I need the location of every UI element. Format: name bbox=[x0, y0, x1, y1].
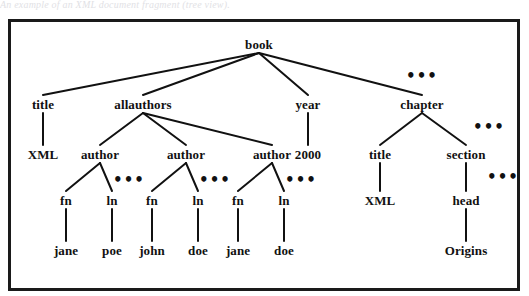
ellipsis-ell-chapter-siblings: ••• bbox=[406, 69, 438, 84]
tree-node-ln2: ln bbox=[192, 194, 203, 207]
tree-node-title2: title bbox=[369, 148, 391, 161]
tree-edge bbox=[66, 163, 100, 191]
tree-edge bbox=[152, 163, 186, 191]
ellipsis-ell-author2: ••• bbox=[199, 173, 231, 188]
ellipsis-ell-author3: ••• bbox=[285, 173, 317, 188]
tree-node-jane2: jane bbox=[226, 244, 250, 257]
tree-node-xml2: XML bbox=[365, 194, 396, 207]
tree-node-origins: Origins bbox=[445, 244, 488, 257]
figure-caption: An example of an XML document fragment (… bbox=[0, 0, 529, 10]
ellipsis-ell-section-siblings: ••• bbox=[473, 120, 505, 135]
tree-edge bbox=[238, 163, 272, 191]
tree-edge bbox=[100, 113, 143, 145]
tree-node-author2: author bbox=[167, 148, 205, 161]
tree-node-y2000: 2000 bbox=[295, 148, 321, 161]
tree-edge bbox=[186, 163, 198, 191]
tree-node-book: book bbox=[245, 38, 273, 51]
tree-node-fn2: fn bbox=[146, 194, 158, 207]
figure-frame: booktitleallauthorsyearchapterXMLauthora… bbox=[8, 19, 520, 291]
tree-node-john: john bbox=[139, 244, 165, 257]
tree-node-author1: author bbox=[81, 148, 119, 161]
tree-node-ln3: ln bbox=[278, 194, 289, 207]
tree-node-year: year bbox=[296, 98, 321, 111]
tree-edge bbox=[380, 113, 422, 145]
tree-node-chapter: chapter bbox=[400, 98, 443, 111]
tree-node-xml1: XML bbox=[28, 148, 59, 161]
tree-node-doe2: doe bbox=[274, 244, 294, 257]
tree-node-head: head bbox=[452, 194, 479, 207]
tree-node-fn3: fn bbox=[232, 194, 244, 207]
tree-edge bbox=[422, 113, 466, 145]
ellipsis-ell-author1: ••• bbox=[113, 173, 145, 188]
ellipsis-ell-head-siblings: ••• bbox=[487, 170, 519, 185]
tree-edge bbox=[143, 113, 272, 145]
tree-edge bbox=[43, 53, 259, 95]
tree-node-doe1: doe bbox=[188, 244, 208, 257]
tree-node-author3: author bbox=[253, 148, 291, 161]
tree-edge bbox=[143, 53, 259, 95]
tree-node-allauthors: allauthors bbox=[114, 98, 171, 111]
tree-node-ln1: ln bbox=[106, 194, 117, 207]
tree-node-title1: title bbox=[32, 98, 54, 111]
tree-node-poe: poe bbox=[102, 244, 122, 257]
tree-node-jane1: jane bbox=[54, 244, 78, 257]
tree-node-section: section bbox=[447, 148, 486, 161]
tree-edge bbox=[272, 163, 284, 191]
tree-node-fn1: fn bbox=[60, 194, 72, 207]
tree-edge bbox=[100, 163, 112, 191]
